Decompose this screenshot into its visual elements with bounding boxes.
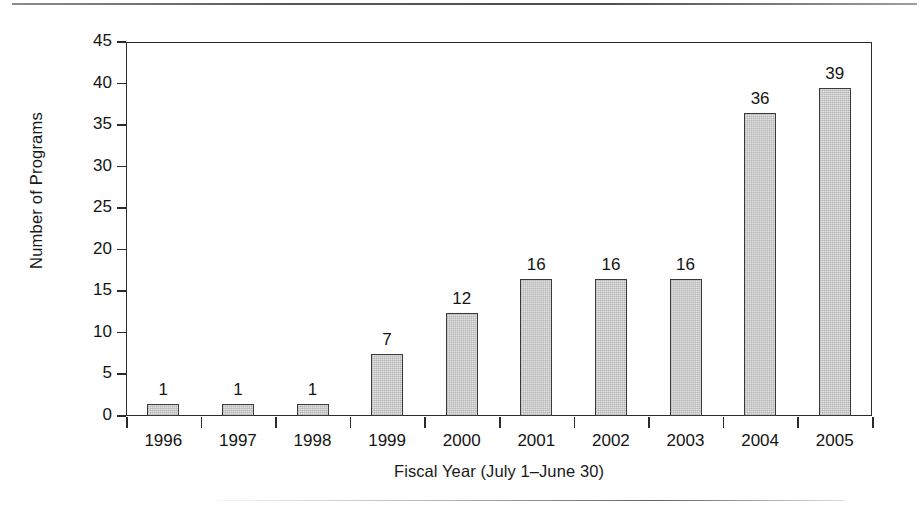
y-axis-tick-label: 15 <box>93 280 112 300</box>
x-axis-tick-mark <box>499 417 501 428</box>
x-axis-tick-mark <box>126 417 128 428</box>
y-axis-tick-label: 40 <box>93 73 112 93</box>
bar-value-label: 12 <box>424 289 499 309</box>
y-axis-tick-label: 45 <box>93 31 112 51</box>
bar-value-label: 39 <box>797 64 872 84</box>
x-axis-tick-label: 2001 <box>499 430 574 452</box>
bar-value-label: 1 <box>275 380 350 400</box>
y-axis-tick-label: 30 <box>93 156 112 176</box>
x-axis-tick-label: 1996 <box>126 430 201 452</box>
y-axis-tick-mark <box>117 415 126 417</box>
x-axis-tick-label: 1998 <box>275 430 350 452</box>
y-axis-tick-mark <box>117 41 126 43</box>
x-axis-tick-mark <box>723 417 725 428</box>
bar-value-label: 36 <box>723 89 798 109</box>
bar-value-label: 1 <box>201 380 276 400</box>
y-axis-tick-label: 35 <box>93 114 112 134</box>
bar-value-label: 7 <box>350 330 425 350</box>
x-axis-tick-mark <box>424 417 426 428</box>
bar <box>520 279 552 416</box>
x-axis-tick-mark <box>797 417 799 428</box>
bar <box>446 313 478 416</box>
bar <box>222 404 254 416</box>
bar <box>670 279 702 416</box>
bar <box>744 113 776 416</box>
y-axis-tick-label: 0 <box>103 405 112 425</box>
x-axis-tick-mark <box>201 417 203 428</box>
y-axis-title: Number of Programs <box>27 51 46 331</box>
x-axis-tick-label: 2000 <box>424 430 499 452</box>
x-axis-tick-mark <box>350 417 352 428</box>
bar <box>147 404 179 416</box>
x-axis-tick-label: 2005 <box>797 430 872 452</box>
bar-chart-figure: Number of Programs 051015202530354045 19… <box>0 0 923 510</box>
y-axis-tick-mark <box>117 332 126 334</box>
y-axis-tick-label: 20 <box>93 239 112 259</box>
y-axis-tick-mark <box>117 166 126 168</box>
bar-value-label: 16 <box>574 255 649 275</box>
y-axis-tick-mark <box>117 83 126 85</box>
x-axis-tick-mark <box>872 417 874 428</box>
bar <box>297 404 329 416</box>
x-axis-tick-label: 2002 <box>574 430 649 452</box>
bar-value-label: 16 <box>499 255 574 275</box>
x-axis-tick-mark <box>574 417 576 428</box>
y-axis-tick-mark <box>117 124 126 126</box>
x-axis-title: Fiscal Year (July 1–June 30) <box>126 462 872 481</box>
y-axis-tick-label: 10 <box>93 322 112 342</box>
y-axis-tick-mark <box>117 207 126 209</box>
y-axis-tick-mark <box>117 290 126 292</box>
x-axis-tick-label: 1997 <box>201 430 276 452</box>
bar-value-label: 1 <box>126 380 201 400</box>
x-axis-tick-label: 2003 <box>648 430 723 452</box>
bar-value-label: 16 <box>648 255 723 275</box>
x-axis-tick-mark <box>275 417 277 428</box>
y-axis-tick-mark <box>117 373 126 375</box>
x-axis-tick-mark <box>648 417 650 428</box>
y-axis-tick-label: 5 <box>103 363 112 383</box>
bar <box>595 279 627 416</box>
bar <box>371 354 403 416</box>
x-axis-tick-label: 2004 <box>723 430 798 452</box>
x-axis-tick-label: 1999 <box>350 430 425 452</box>
bar <box>819 88 851 416</box>
y-axis-tick-label: 25 <box>93 197 112 217</box>
y-axis-tick-mark <box>117 249 126 251</box>
